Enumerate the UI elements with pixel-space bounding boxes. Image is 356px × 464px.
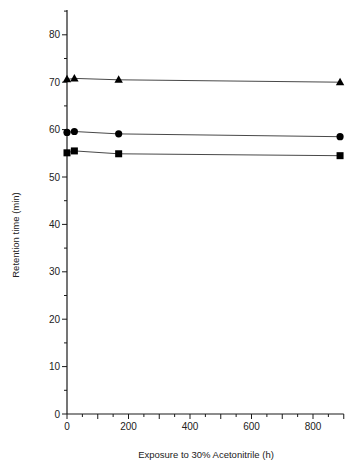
- y-tick-label: 20: [49, 314, 61, 325]
- axes: 010203040506070800200400600800: [49, 10, 344, 432]
- y-tick-label: 50: [49, 172, 61, 183]
- retention-time-chart: 010203040506070800200400600800 Exposure …: [0, 0, 356, 464]
- x-tick-label: 400: [182, 421, 199, 432]
- y-tick-label: 80: [49, 29, 61, 40]
- series-circle: [63, 128, 343, 140]
- data-series: [63, 74, 344, 159]
- y-axis-title: Retention time (min): [10, 192, 21, 278]
- x-tick-label: 600: [243, 421, 260, 432]
- x-tick-label: 800: [305, 421, 322, 432]
- x-axis-title: Exposure to 30% Acetonitrile (h): [138, 449, 274, 460]
- square-marker: [71, 147, 78, 154]
- y-tick-label: 60: [49, 124, 61, 135]
- square-marker: [115, 150, 122, 157]
- triangle-marker: [336, 78, 344, 86]
- x-tick-label: 0: [64, 421, 70, 432]
- y-tick-label: 10: [49, 361, 61, 372]
- triangle-marker: [114, 75, 122, 83]
- y-tick-label: 0: [54, 409, 60, 420]
- circle-marker: [71, 128, 78, 135]
- y-tick-label: 70: [49, 77, 61, 88]
- series-line: [67, 151, 340, 156]
- circle-marker: [63, 129, 70, 136]
- circle-marker: [336, 133, 343, 140]
- series-square: [64, 147, 344, 159]
- circle-marker: [115, 130, 122, 137]
- square-marker: [64, 149, 71, 156]
- y-tick-label: 30: [49, 266, 61, 277]
- y-tick-label: 40: [49, 219, 61, 230]
- series-line: [67, 78, 340, 82]
- triangle-marker: [70, 74, 78, 82]
- x-tick-label: 200: [120, 421, 137, 432]
- series-line: [67, 132, 340, 137]
- square-marker: [337, 152, 344, 159]
- series-triangle: [63, 74, 344, 85]
